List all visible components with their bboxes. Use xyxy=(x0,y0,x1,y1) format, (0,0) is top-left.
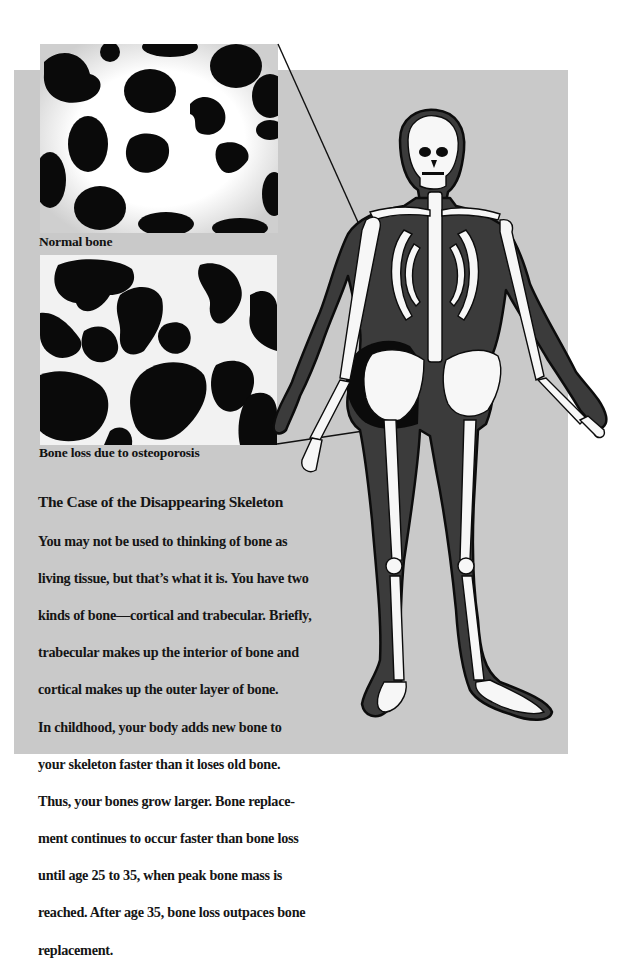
osteoporosis-bone-image xyxy=(40,255,277,445)
article-block: The Case of the Disappearing Skeleton Yo… xyxy=(38,492,338,962)
osteoporosis-bone-caption: Bone loss due to osteoporosis xyxy=(39,445,199,461)
article-line: your skeleton faster than it loses old b… xyxy=(38,755,338,774)
article-line: cortical makes up the outer layer of bon… xyxy=(38,680,338,699)
trabecular-osteoporosis-bone-icon xyxy=(40,255,277,445)
article-line: replacement. xyxy=(38,941,338,960)
normal-bone-caption: Normal bone xyxy=(39,234,112,250)
article-title: The Case of the Disappearing Skeleton xyxy=(38,492,338,511)
article-line: In childhood, your body adds new bone to xyxy=(38,718,338,737)
article-line: You may not be used to thinking of bone … xyxy=(38,532,338,551)
normal-bone-image xyxy=(40,44,278,233)
article-line: ment continues to occur faster than bone… xyxy=(38,829,338,848)
article-line: kinds of bone—cortical and trabecular. B… xyxy=(38,606,338,625)
article-line: living tissue, but that’s what it is. Yo… xyxy=(38,569,338,588)
article-body: You may not be used to thinking of bone … xyxy=(38,513,338,962)
trabecular-normal-bone-icon xyxy=(40,44,278,233)
article-line: Thus, your bones grow larger. Bone repla… xyxy=(38,792,338,811)
article-line: reached. After age 35, bone loss outpace… xyxy=(38,903,338,922)
article-line: trabecular makes up the interior of bone… xyxy=(38,643,338,662)
article-line: until age 25 to 35, when peak bone mass … xyxy=(38,866,338,885)
